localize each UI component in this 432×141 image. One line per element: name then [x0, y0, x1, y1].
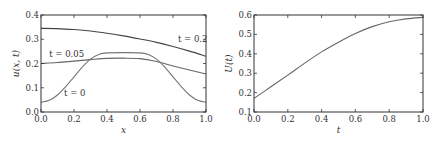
y-tick-label: 0.3 — [25, 34, 39, 44]
y-tick-label: 0.4 — [238, 49, 252, 59]
x-tick-label: 0.8 — [166, 114, 180, 124]
y-tick-label: 0.2 — [238, 88, 252, 98]
x-tick-label: 0.2 — [281, 114, 295, 124]
y-tick-label: 0.6 — [238, 10, 252, 20]
x-tick-label: 0.6 — [133, 114, 147, 124]
y-tick-label: 0.1 — [25, 83, 39, 93]
panel-u-x-t: 0.00.20.40.60.81.00.00.10.20.30.4xu(x, t… — [11, 10, 213, 135]
x-axis-label: x — [121, 125, 126, 135]
figure: 0.00.20.40.60.81.00.00.10.20.30.4xu(x, t… — [0, 0, 432, 141]
y-tick-label: 0.5 — [238, 29, 252, 39]
y-tick-label: 0.2 — [25, 59, 39, 69]
panel-U-t: 0.00.20.40.60.81.00.10.20.30.40.50.6tU(t… — [224, 10, 430, 135]
y-axis-label: u(x, t) — [11, 49, 21, 77]
x-tick-label: 0.4 — [315, 114, 329, 124]
curve-annotation: t = 0 — [64, 88, 85, 98]
y-tick-label: 0.1 — [238, 107, 252, 117]
x-tick-label: 0.8 — [382, 114, 396, 124]
y-tick-label: 0.4 — [25, 10, 39, 20]
curve-annotation: t = 0.05 — [49, 49, 84, 59]
x-tick-label: 0.4 — [100, 114, 114, 124]
x-tick-label: 0.2 — [67, 114, 81, 124]
x-tick-label: 0.6 — [349, 114, 363, 124]
y-tick-label: 0.0 — [25, 107, 39, 117]
x-axis-label: t — [337, 125, 341, 135]
y-axis-label: U(t) — [224, 54, 234, 73]
x-tick-label: 1.0 — [416, 114, 430, 124]
x-tick-label: 1.0 — [199, 114, 213, 124]
series-line-u-t- — [254, 17, 423, 98]
curve-annotation: t = 0.2 — [178, 34, 207, 44]
y-tick-label: 0.3 — [238, 68, 252, 78]
plot-frame — [254, 15, 423, 112]
series-line-t-0.05 — [41, 58, 206, 74]
